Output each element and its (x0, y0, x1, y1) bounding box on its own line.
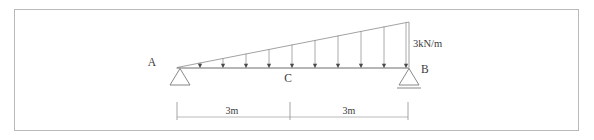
load-arrow (244, 54, 248, 69)
label-point-a: A (148, 56, 157, 68)
support-roller-b (397, 69, 421, 89)
load-arrow (267, 49, 271, 68)
label-dimension-right: 3m (343, 105, 356, 116)
label-dimension-left: 3m (226, 105, 239, 116)
load-arrow (336, 36, 340, 69)
load-arrow (221, 58, 225, 68)
label-load-magnitude: 3kN/m (413, 38, 442, 49)
label-point-b: B (421, 63, 429, 75)
load-arrow (404, 23, 408, 69)
load-hypotenuse-line (177, 22, 409, 68)
load-arrow-group (198, 23, 408, 69)
figure-border (15, 10, 579, 131)
dimension-line-group (177, 102, 408, 120)
beam-diagram-canvas: A B C 3kN/m 3m 3m (0, 0, 594, 140)
load-arrow (382, 27, 386, 69)
load-arrow (359, 31, 363, 68)
load-arrow (290, 45, 294, 69)
load-arrow (313, 40, 317, 68)
support-pin-a (170, 69, 190, 86)
label-point-c: C (284, 72, 292, 84)
beam-diagram-figure: A B C 3kN/m 3m 3m (0, 0, 594, 140)
